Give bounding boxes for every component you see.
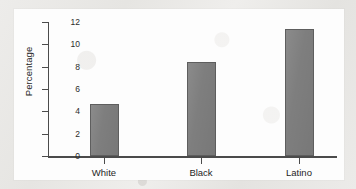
x-tick-mark-black <box>201 158 202 164</box>
y-tick-label-4: 4 <box>58 107 80 115</box>
y-tick-mark-2 <box>42 134 48 135</box>
x-tick-mark-white <box>104 158 105 164</box>
y-tick-mark-6 <box>42 89 48 90</box>
y-tick-label-12: 12 <box>58 18 80 26</box>
y-tick-mark-4 <box>42 111 48 112</box>
y-tick-mark-12 <box>42 22 48 23</box>
y-tick-label-0: 0 <box>58 152 80 160</box>
y-tick-mark-0 <box>42 156 48 157</box>
y-tick-label-6: 6 <box>58 85 80 93</box>
bar-latino <box>285 29 314 156</box>
y-axis-line <box>48 22 49 157</box>
x-tick-label-black: Black <box>166 167 236 178</box>
y-tick-label-2: 2 <box>58 130 80 138</box>
y-tick-mark-10 <box>42 44 48 45</box>
bar-white <box>90 104 119 156</box>
y-tick-label-10: 10 <box>58 40 80 48</box>
chart-card: Percentage 12 10 8 6 4 2 0 <box>14 9 344 180</box>
scanned-chart-page: Percentage 12 10 8 6 4 2 0 <box>0 0 356 189</box>
x-axis-line <box>48 156 337 158</box>
y-tick-mark-8 <box>42 67 48 68</box>
y-tick-label-8: 8 <box>58 63 80 71</box>
bar-chart: Percentage 12 10 8 6 4 2 0 <box>14 9 344 180</box>
bar-black <box>187 62 216 156</box>
y-axis-title: Percentage <box>23 30 34 114</box>
x-tick-mark-latino <box>299 158 300 164</box>
x-tick-label-white: White <box>69 167 139 178</box>
x-tick-label-latino: Latino <box>264 167 334 178</box>
